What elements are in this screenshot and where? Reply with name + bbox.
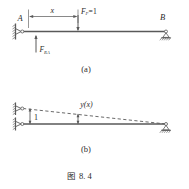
label-applied-load: F P =1 <box>80 7 97 17</box>
label-node-a: A <box>17 13 24 23</box>
support-b-upper-triangle <box>16 106 22 111</box>
label-reaction-force: F RA <box>39 45 50 55</box>
deflection-curve <box>23 109 166 125</box>
caption-number: 8. 4 <box>79 171 93 181</box>
label-dimension-x: x <box>50 6 55 15</box>
figure-drawing: A B x F P =1 F RA (a) <box>0 0 189 189</box>
figure-caption-group: 图 8. 4 <box>67 171 93 181</box>
dimension-arrowhead-right <box>73 15 77 18</box>
support-b-lower-hinge-circle <box>21 123 24 126</box>
support-b-triangle <box>163 33 169 38</box>
support-b-right-triangle <box>163 125 169 129</box>
dimension-arrowhead-left <box>29 15 33 18</box>
label-unit-displacement: 1 <box>34 113 38 122</box>
support-b-upper-hinge-circle <box>21 107 24 110</box>
support-b-right-hatch <box>160 130 162 133</box>
support-a-pin-triangle <box>16 29 22 35</box>
reaction-arrowhead <box>34 35 37 39</box>
ordinate-indicator <box>77 114 80 125</box>
load-arrowhead <box>76 27 79 31</box>
figure-container: A B x F P =1 F RA (a) <box>0 0 189 189</box>
support-b-lower-triangle <box>16 121 22 126</box>
sublabel-panel-a: (a) <box>81 64 91 74</box>
support-b-lower-pin <box>13 118 24 131</box>
label-node-b: B <box>160 12 165 22</box>
label-applied-load-value: =1 <box>89 7 97 16</box>
caption-prefix: 图 <box>67 171 76 181</box>
unit-displacement-indicator: 1 <box>29 108 38 124</box>
support-b-hatch <box>160 38 162 41</box>
sublabel-panel-b: (b) <box>81 144 91 154</box>
panel-a-group: A B x F P =1 F RA (a) <box>13 6 171 74</box>
support-a-hinge-circle <box>21 30 24 33</box>
label-deflection-function: y(x) <box>79 100 93 109</box>
support-a-pin <box>13 24 24 40</box>
support-b-upper-pin <box>13 103 24 116</box>
panel-b-group: 1 y(x) (b) <box>13 100 171 155</box>
label-reaction-force-subscript: RA <box>43 50 50 55</box>
